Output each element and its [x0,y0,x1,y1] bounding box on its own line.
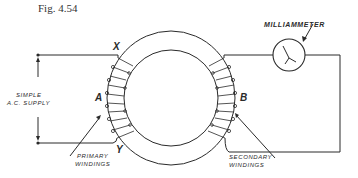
supply-wire-top [38,55,118,58]
label-x: X [113,42,120,52]
secondary-label-line1: SECONDARY [229,154,272,160]
figure-caption: Fig. 4.54 [38,3,77,14]
secondary-label-line2: WINDINGS [229,162,264,168]
supply-wire-bottom [38,138,117,143]
primary-coil [105,58,134,138]
ring-outer [107,31,235,165]
secondary-coil [208,58,237,138]
primary-label-line1: PRIMARY [77,153,108,159]
supply-label-line1: SIMPLE [16,92,42,98]
label-a: A [95,93,102,103]
primary-label-line2: WINDINGS [75,161,110,167]
label-b: B [240,93,247,103]
label-y: Y [116,145,123,155]
meter-label: MILLIAMMETER [264,21,325,28]
meter-needle-icon [283,46,296,64]
meter-wire-left [224,55,273,58]
primary-pointer [70,117,100,156]
milliammeter [273,39,305,71]
supply-label-line2: A.C. SUPPLY [7,100,50,106]
ring-inner [124,50,218,146]
